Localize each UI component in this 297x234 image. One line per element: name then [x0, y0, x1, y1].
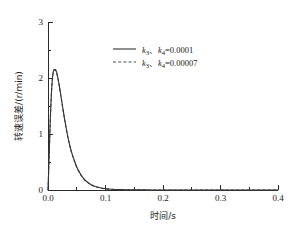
x-tick-label-4: 0.4	[272, 193, 284, 203]
x-tick-label-1: 0.1	[100, 193, 111, 203]
legend-label-1: k3、k4=0.0001	[142, 45, 193, 56]
legend-1-sep: 、	[149, 45, 158, 55]
chart-figure: 0 1 2 3 0.0 0.1 0.2 0.3 0.4 时间/s 转速误差/(r…	[0, 0, 297, 234]
x-tick-label-3: 0.3	[215, 193, 227, 203]
y-tick-label-3: 3	[39, 17, 44, 27]
y-tick-label-2: 2	[39, 73, 44, 83]
y-axis-title: 转速误差/(r/min)	[13, 71, 24, 141]
x-tick-label-2: 0.2	[157, 193, 168, 203]
y-tick-label-1: 1	[39, 129, 44, 139]
legend-1-value: =0.0001	[165, 45, 193, 55]
line-chart: 0 1 2 3 0.0 0.1 0.2 0.3 0.4 时间/s 转速误差/(r…	[0, 0, 297, 234]
x-axis-title: 时间/s	[150, 210, 176, 221]
legend-2-value: =0.00007	[165, 58, 197, 68]
legend-2-sep: 、	[149, 58, 158, 68]
x-tick-label-0: 0.0	[42, 193, 54, 203]
legend-label-2: k3、k4=0.00007	[142, 58, 197, 69]
